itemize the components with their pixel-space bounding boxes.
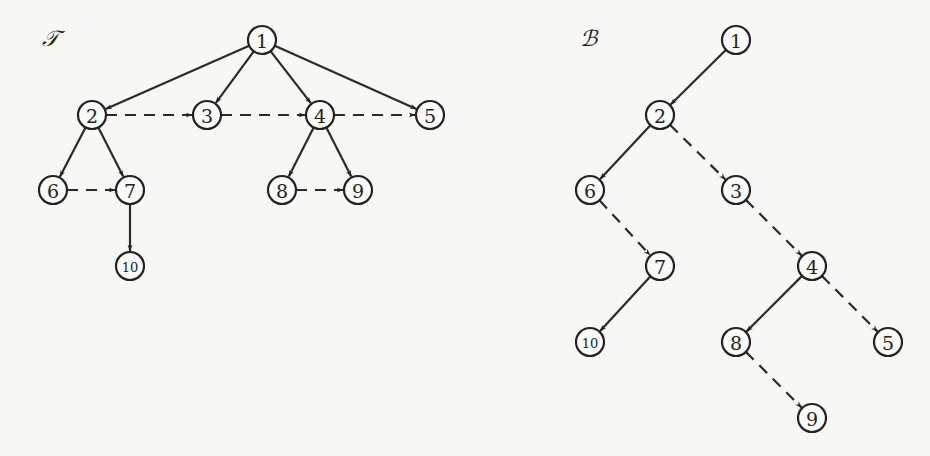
tree-T-node-2: 2 xyxy=(78,101,106,129)
tree-T-node-8: 8 xyxy=(268,176,296,204)
node-label: 6 xyxy=(47,180,59,202)
node-label: 8 xyxy=(730,332,742,354)
tree-B-node-9: 9 xyxy=(798,404,826,432)
node-label: 7 xyxy=(654,256,666,278)
node-label: 9 xyxy=(806,408,818,430)
binary-tree-B: ℬ 12637410859 xyxy=(576,26,902,432)
tree-T-node-7: 7 xyxy=(116,176,144,204)
child-arrow-B-4-8 xyxy=(747,276,802,331)
tree-T-node-6: 6 xyxy=(39,176,67,204)
tree-B-node-5: 5 xyxy=(874,328,902,356)
tree-T-node-10: 10 xyxy=(116,252,144,280)
tree-B-node-4: 4 xyxy=(798,252,826,280)
node-label: 4 xyxy=(806,256,818,278)
tree-T-edges xyxy=(60,46,416,251)
child-arrow-T-2-7 xyxy=(98,127,123,176)
node-label: 7 xyxy=(124,180,136,202)
child-arrow-B-7-10 xyxy=(600,276,650,331)
node-label: 8 xyxy=(276,180,288,202)
child-arrow-T-1-2 xyxy=(106,46,249,109)
sibling-arrow-B-2-3 xyxy=(670,125,725,180)
node-label: 5 xyxy=(424,105,436,127)
node-label: 1 xyxy=(256,30,268,52)
child-arrow-T-1-5 xyxy=(275,46,417,109)
tree-T-node-3: 3 xyxy=(193,101,221,129)
tree-B-node-3: 3 xyxy=(722,176,750,204)
node-label: 4 xyxy=(314,105,326,127)
tree-B-node-7: 7 xyxy=(646,252,674,280)
tree-T-label: 𝒯 xyxy=(42,26,66,51)
sibling-arrow-B-3-4 xyxy=(746,200,801,255)
tree-B-node-8: 8 xyxy=(722,328,750,356)
sibling-arrow-B-4-5 xyxy=(822,276,877,331)
node-label: 6 xyxy=(584,180,596,202)
tree-T-node-5: 5 xyxy=(416,101,444,129)
sibling-arrow-B-6-7 xyxy=(599,200,649,255)
node-label: 10 xyxy=(122,260,139,275)
tree-B-node-6: 6 xyxy=(576,176,604,204)
child-arrow-T-4-9 xyxy=(326,127,351,176)
node-label: 3 xyxy=(730,180,742,202)
node-label: 2 xyxy=(86,105,98,127)
child-arrow-B-1-2 xyxy=(671,50,726,105)
tree-T-node-4: 4 xyxy=(306,101,334,129)
node-label: 3 xyxy=(201,105,213,127)
tree-B-node-1: 1 xyxy=(722,26,750,54)
general-tree-T: 𝒯 12345678910 xyxy=(39,26,444,280)
node-label: 10 xyxy=(582,336,599,351)
tree-diagram-canvas: 𝒯 12345678910 ℬ 12637410859 xyxy=(0,0,930,456)
node-label: 5 xyxy=(882,332,894,354)
child-arrow-T-4-8 xyxy=(289,127,314,176)
sibling-arrow-B-8-9 xyxy=(746,352,801,407)
tree-T-node-1: 1 xyxy=(248,26,276,54)
tree-T-node-9: 9 xyxy=(344,176,372,204)
tree-B-label: ℬ xyxy=(580,26,599,51)
node-label: 2 xyxy=(654,105,666,127)
tree-B-node-10: 10 xyxy=(576,328,604,356)
node-label: 9 xyxy=(352,180,364,202)
tree-B-node-2: 2 xyxy=(646,101,674,129)
tree-T-nodes: 12345678910 xyxy=(39,26,444,280)
child-arrow-T-2-6 xyxy=(60,127,86,176)
node-label: 1 xyxy=(730,30,742,52)
child-arrow-B-2-6 xyxy=(600,125,650,179)
